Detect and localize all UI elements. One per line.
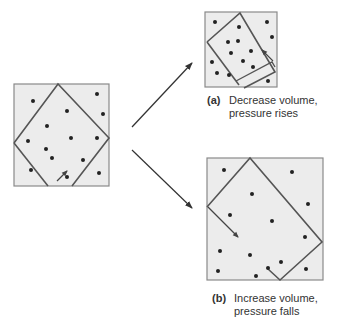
caption-a-line2: pressure rises bbox=[207, 107, 318, 120]
panel-b bbox=[207, 158, 323, 280]
caption-a: (a)Decrease volume, pressure rises bbox=[207, 94, 318, 120]
caption-b-line1: Increase volume, bbox=[234, 292, 318, 304]
panel-a bbox=[205, 12, 277, 88]
caption-a-tag: (a) bbox=[207, 94, 229, 107]
caption-b-tag: (b) bbox=[212, 292, 234, 305]
caption-a-line1: Decrease volume, bbox=[229, 94, 318, 106]
arrow-to-b bbox=[132, 150, 192, 208]
initial-box bbox=[14, 84, 109, 186]
arrow-to-a bbox=[132, 63, 192, 127]
gas-pressure-diagram bbox=[0, 0, 341, 326]
caption-b: (b)Increase volume, pressure falls bbox=[212, 292, 318, 318]
caption-b-line2: pressure falls bbox=[212, 305, 318, 318]
initial-panel bbox=[14, 84, 109, 186]
